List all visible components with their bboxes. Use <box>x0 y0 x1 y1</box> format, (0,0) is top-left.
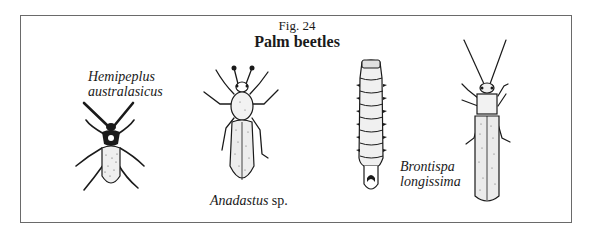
label-brontispa: Brontispa longissima <box>400 159 461 189</box>
label-anadastus: Anadastus sp. <box>210 193 288 208</box>
label-hemipeplus-genus: Hemipeplus <box>88 69 163 84</box>
label-anadastus-genus: Anadastus <box>210 193 268 208</box>
label-brontispa-genus: Brontispa <box>400 159 461 174</box>
label-brontispa-species: longissima <box>400 174 461 189</box>
label-anadastus-sp: sp. <box>268 193 287 208</box>
figure-number: Fig. 24 <box>0 18 594 34</box>
label-hemipeplus: Hemipeplus australasicus <box>88 69 163 99</box>
anadastus-beetle-illustration <box>198 62 298 190</box>
hemipeplus-beetle-illustration <box>68 100 158 200</box>
label-hemipeplus-species: australasicus <box>88 84 163 99</box>
brontispa-beetle-illustration <box>458 38 518 208</box>
larva-illustration <box>350 58 392 198</box>
